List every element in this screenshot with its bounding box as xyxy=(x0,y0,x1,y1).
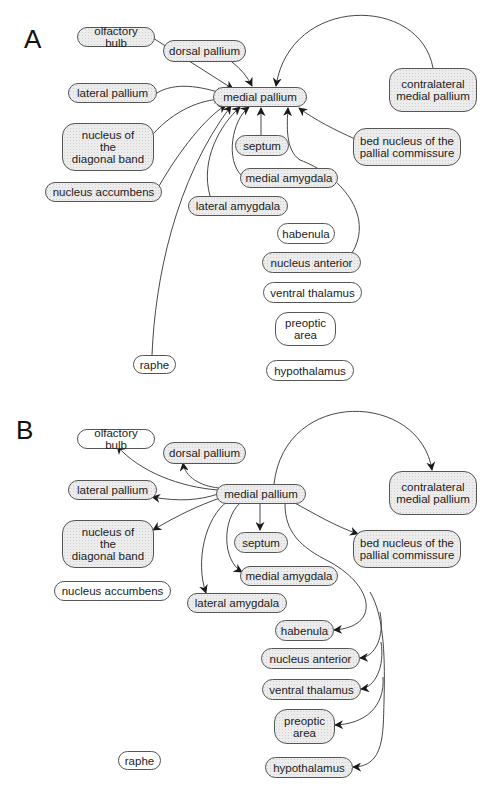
node-olfactory-bulb: olfactory bulb xyxy=(77,27,155,47)
node-lateral-pallium: lateral pallium xyxy=(68,83,157,103)
node-dorsal-pallium: dorsal pallium xyxy=(163,40,246,62)
node-ventral-thalamus: ventral thalamus xyxy=(263,282,362,303)
edge-lateral-amygdala-to-medial-pallium xyxy=(207,107,240,196)
edge-nucleus-accumbens-to-medial-pallium xyxy=(159,105,226,186)
node-preoptic-area: preoptic area xyxy=(274,709,335,744)
node-nucleus-diagonal-band: nucleus of the diagonal band xyxy=(62,520,154,568)
edge-medial-pallium-to-ventral-thalamus xyxy=(361,642,382,689)
edge-medial-pallium-to-dorsal-pallium xyxy=(183,463,219,488)
node-medial-amygdala: medial amygdala xyxy=(240,566,338,586)
node-nucleus-accumbens: nucleus accumbens xyxy=(54,581,171,601)
node-septum: septum xyxy=(234,532,288,553)
edge-medial-pallium-to-lateral-pallium xyxy=(152,494,218,500)
node-lateral-amygdala: lateral amygdala xyxy=(188,196,288,216)
node-raphe: raphe xyxy=(133,355,176,374)
node-nucleus-diagonal-band: nucleus of the diagonal band xyxy=(62,123,154,171)
edge-medial-pallium-to-hypothalamus xyxy=(353,592,384,767)
node-medial-amygdala: medial amygdala xyxy=(240,168,338,188)
panel-b-outputs: B olfactory bulbdorsal palliumlateral pa… xyxy=(0,407,493,795)
node-septum: septum xyxy=(235,135,289,156)
node-raphe: raphe xyxy=(118,751,161,770)
edge-medial-pallium-to-bed-nucleus xyxy=(293,502,358,534)
node-hypothalamus: hypothalamus xyxy=(265,757,353,778)
node-dorsal-pallium: dorsal pallium xyxy=(163,442,246,464)
node-nucleus-anterior: nucleus anterior xyxy=(262,252,361,273)
edge-medial-pallium-to-nucleus-anterior xyxy=(360,612,381,658)
node-nucleus-accumbens: nucleus accumbens xyxy=(45,182,162,202)
node-habenula: habenula xyxy=(275,620,334,641)
edge-dorsal-pallium-to-medial-pallium xyxy=(232,62,252,86)
edge-medial-pallium-to-nucleus-diagonal-band xyxy=(153,498,220,530)
node-ventral-thalamus: ventral thalamus xyxy=(262,679,361,700)
node-lateral-amygdala: lateral amygdala xyxy=(187,593,287,613)
node-bed-nucleus: bed nucleus of the pallial commissure xyxy=(353,128,461,166)
panel-a-inputs: A olfactory bulbdorsal palliumlateral pa… xyxy=(0,0,493,400)
edge-raphe-to-medial-pallium xyxy=(152,106,231,355)
node-medial-pallium: medial pallium xyxy=(213,87,307,107)
edge-medial-pallium-to-lateral-amygdala xyxy=(202,501,228,593)
edge-bed-nucleus-to-medial-pallium xyxy=(299,108,355,139)
node-contralateral-medial-pallium: contralateral medial pallium xyxy=(389,68,477,112)
node-contralateral-medial-pallium: contralateral medial pallium xyxy=(389,471,477,515)
node-preoptic-area: preoptic area xyxy=(275,312,336,346)
node-habenula: habenula xyxy=(277,223,335,244)
node-olfactory-bulb: olfactory bulb xyxy=(77,429,155,449)
node-bed-nucleus: bed nucleus of the pallial commissure xyxy=(353,530,461,568)
node-lateral-pallium: lateral pallium xyxy=(68,480,157,500)
node-nucleus-anterior: nucleus anterior xyxy=(261,648,360,669)
node-hypothalamus: hypothalamus xyxy=(266,360,354,381)
node-medial-pallium: medial pallium xyxy=(216,484,306,504)
